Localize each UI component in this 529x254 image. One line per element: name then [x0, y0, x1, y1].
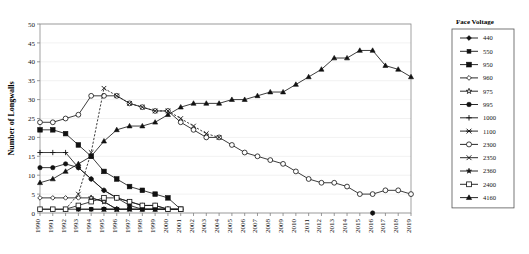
legend-item-label: 440: [483, 34, 493, 41]
x-tick-label: 2008: [264, 219, 272, 234]
data-point-circle-filled: [370, 211, 374, 215]
data-point-square-filled: [114, 177, 119, 182]
x-tick-label: 2002: [188, 219, 196, 234]
chart-background: [0, 0, 529, 254]
data-point-circle-open: [293, 169, 298, 174]
y-tick-label: 10: [28, 172, 36, 180]
data-point-circle-open: [76, 112, 81, 117]
data-point-square-open: [89, 199, 94, 204]
data-point-circle-filled: [38, 165, 42, 169]
data-point-square-filled: [127, 184, 132, 189]
x-tick-label: 2017: [379, 219, 387, 234]
legend-item-label: 950: [483, 61, 493, 68]
legend-item-label: 1100: [483, 128, 496, 135]
x-tick-label: 2018: [392, 219, 400, 234]
y-tick-label: 50: [28, 21, 36, 29]
data-point-square-open: [127, 199, 132, 204]
data-point-circle-open: [396, 188, 401, 193]
x-tick-label: 1992: [60, 219, 68, 234]
data-point-square-open: [166, 207, 171, 212]
x-tick-label: 2019: [405, 219, 413, 234]
data-point-circle-open: [357, 192, 362, 197]
data-point-circle-open: [319, 180, 324, 185]
data-point-circle-filled: [467, 102, 472, 107]
data-point-circle-open: [306, 177, 311, 182]
y-tick-label: 30: [28, 96, 36, 104]
x-tick-label: 2010: [290, 219, 298, 234]
data-point-circle-open: [38, 120, 43, 125]
data-point-square-open: [63, 207, 68, 212]
x-tick-label: 1998: [136, 219, 144, 234]
data-point-square-filled: [140, 188, 145, 193]
legend-item-label: 2400: [483, 181, 496, 188]
data-point-square-open: [38, 207, 43, 212]
data-point-circle-filled: [63, 162, 67, 166]
x-tick-label: 1997: [124, 219, 132, 234]
x-tick-label: 2011: [303, 219, 311, 233]
data-point-circle-open: [50, 120, 55, 125]
legend-item-label: 995: [483, 101, 493, 108]
data-point-square-filled: [38, 128, 43, 133]
x-tick-label: 1995: [98, 219, 106, 234]
legend-item-label: 975: [483, 88, 493, 95]
y-axis-title: Number of Longwalls: [7, 81, 16, 155]
data-point-square-filled: [76, 143, 81, 148]
y-tick-label: 20: [28, 134, 36, 142]
data-point-square-filled: [50, 128, 55, 133]
x-tick-label: 2003: [200, 219, 208, 234]
legend-title: Face Voltage: [456, 18, 494, 26]
x-tick-label: 2004: [213, 219, 221, 234]
data-point-square-open: [153, 203, 158, 208]
data-point-circle-open: [466, 142, 471, 147]
data-point-square-filled-small: [89, 207, 93, 211]
data-point-circle-open: [345, 184, 350, 189]
y-tick-label: 0: [32, 210, 36, 218]
x-tick-label: 1996: [111, 219, 119, 234]
x-tick-label: 1990: [34, 219, 42, 234]
data-point-square-open: [467, 182, 472, 187]
data-point-square-open: [102, 196, 107, 201]
data-point-square-filled: [467, 62, 472, 67]
legend-item-label: 550: [483, 48, 493, 55]
legend-item-label: 4160: [483, 194, 496, 201]
data-point-square-open: [76, 203, 81, 208]
x-tick-label: 1991: [47, 219, 55, 234]
data-point-circle-filled: [51, 165, 55, 169]
x-tick-label: 2000: [162, 219, 170, 234]
y-tick-label: 5: [32, 191, 36, 199]
data-point-circle-open: [332, 180, 337, 185]
data-point-square-open: [140, 203, 145, 208]
x-tick-label: 2013: [328, 219, 336, 234]
x-tick-label: 2016: [367, 219, 375, 234]
x-tick-label: 2001: [175, 219, 183, 234]
legend-item-label: 2360: [483, 167, 496, 174]
y-tick-label: 45: [28, 40, 36, 48]
y-axis-title-text: Number of Longwalls: [7, 81, 16, 155]
x-tick-label: 1993: [72, 219, 80, 234]
data-point-circle-open: [229, 143, 234, 148]
data-point-square-filled-small: [467, 49, 471, 53]
data-point-square-filled: [102, 169, 107, 174]
legend-item-label: 2350: [483, 154, 496, 161]
legend-item-label: 960: [483, 74, 493, 81]
x-tick-label: 2007: [251, 219, 259, 234]
data-point-circle-open: [281, 161, 286, 166]
data-point-square-filled: [153, 192, 158, 197]
data-point-circle-open: [242, 150, 247, 155]
data-point-circle-open: [383, 188, 388, 193]
y-tick-label: 40: [28, 58, 36, 66]
data-point-square-open: [178, 207, 183, 212]
x-tick-label: 2005: [226, 219, 234, 234]
data-point-circle-open: [89, 93, 94, 98]
longwall-face-voltage-chart: 05101520253035404550 1990199119921993199…: [0, 0, 529, 254]
y-tick-label: 35: [28, 77, 36, 85]
data-point-square-filled: [63, 131, 68, 136]
data-point-circle-open: [370, 192, 375, 197]
x-tick-label: 2015: [354, 219, 362, 234]
x-tick-label: 2012: [315, 219, 323, 234]
legend-item-label: 2300: [483, 141, 496, 148]
y-tick-label: 25: [28, 115, 36, 123]
data-point-square-filled: [166, 196, 171, 201]
x-tick-label: 2009: [277, 219, 285, 234]
x-tick-label: 1994: [85, 219, 93, 234]
